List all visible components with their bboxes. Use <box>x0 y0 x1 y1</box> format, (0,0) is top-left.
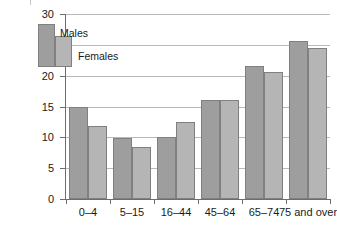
x-tick-mark-4 <box>242 199 243 204</box>
bar-males-0-4 <box>69 107 88 200</box>
x-tick-mark-0 <box>66 199 67 204</box>
x-tick-label-65-74: 65–74 <box>249 206 280 218</box>
y-tick-mark-10 <box>60 137 65 138</box>
x-tick-mark-2 <box>154 199 155 204</box>
x-tick-mark-3 <box>198 199 199 204</box>
plot-area <box>66 14 330 199</box>
y-tick-mark-0 <box>60 199 65 200</box>
x-tick-label-5-15: 5–15 <box>120 206 144 218</box>
bar-males-16-44 <box>157 137 176 199</box>
bar-females-65-74 <box>264 72 283 199</box>
legend-swatch-females <box>55 36 72 67</box>
y-tick-label-0: 0 <box>28 194 54 205</box>
bar-females-5-15 <box>132 147 151 199</box>
gridline-30 <box>66 14 330 15</box>
x-tick-label-75-and-over: 75 and over <box>279 206 337 218</box>
y-tick-label-20: 20 <box>28 70 54 81</box>
legend-swatch-males <box>38 24 55 67</box>
bar-females-45-64 <box>220 100 239 199</box>
top-axis-stub <box>30 0 31 5</box>
x-tick-mark-1 <box>110 199 111 204</box>
x-tick-mark-6 <box>330 199 331 204</box>
bar-females-16-44 <box>176 122 195 199</box>
legend-label-females: Females <box>78 51 118 62</box>
y-tick-mark-30 <box>60 14 65 15</box>
y-tick-label-10: 10 <box>28 132 54 143</box>
bar-males-75-and-over <box>289 41 308 199</box>
x-tick-label-16-44: 16–44 <box>161 206 192 218</box>
x-tick-label-45-64: 45–64 <box>205 206 236 218</box>
y-tick-mark-5 <box>60 168 65 169</box>
y-tick-label-15: 15 <box>28 101 54 112</box>
bar-females-75-and-over <box>308 48 327 199</box>
bar-females-0-4 <box>88 126 107 199</box>
y-tick-mark-20 <box>60 76 65 77</box>
x-tick-label-0-4: 0–4 <box>79 206 97 218</box>
legend-label-males: Males <box>60 28 88 39</box>
x-tick-mark-5 <box>286 199 287 204</box>
bar-males-45-64 <box>201 100 220 199</box>
bar-males-5-15 <box>113 138 132 199</box>
y-tick-mark-15 <box>60 107 65 108</box>
bar-males-65-74 <box>245 66 264 199</box>
y-tick-label-30: 30 <box>28 9 54 20</box>
y-tick-label-5: 5 <box>28 163 54 174</box>
